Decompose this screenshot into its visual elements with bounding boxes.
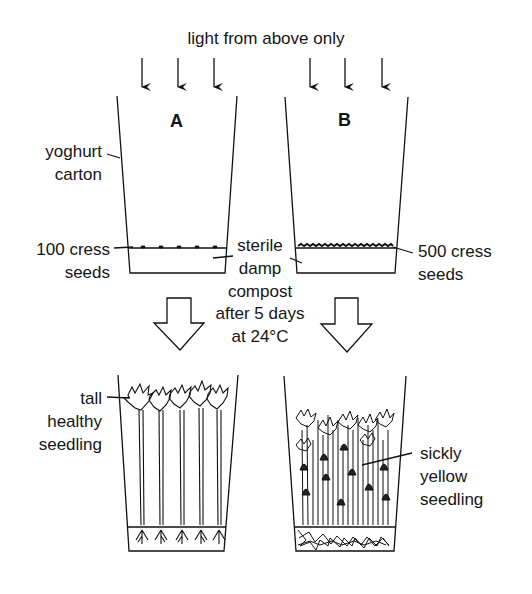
down-arrow-b <box>321 298 372 352</box>
seeds-b-line1: 500 cress <box>418 240 492 263</box>
carton-b-label: B <box>338 109 351 132</box>
tall-line3: seedling <box>20 433 102 456</box>
seeds-a-line1: 100 cress <box>20 238 110 261</box>
seeds-a-line2: seeds <box>20 261 110 284</box>
seeds-b-line2: seeds <box>418 263 463 286</box>
tall-seedlings <box>124 381 228 544</box>
tall-line1: tall <box>20 387 102 410</box>
sickly-line3: seedling <box>420 488 483 511</box>
title: light from above only <box>166 27 366 50</box>
carton-label-line1: yoghurt <box>20 140 102 163</box>
compost-line1: sterile <box>220 234 300 257</box>
sickly-seedlings <box>296 409 394 550</box>
sickly-line2: yellow <box>420 465 467 488</box>
compost-line3: compost <box>220 280 300 303</box>
tall-line2: healthy <box>20 410 102 433</box>
sickly-line1: sickly <box>420 442 462 465</box>
carton-a-label: A <box>170 110 183 133</box>
down-arrow-a <box>154 298 204 350</box>
carton-a-result <box>118 375 238 551</box>
condition-line2: at 24°C <box>200 325 320 348</box>
light-arrows-b <box>310 58 382 87</box>
light-arrows-a <box>142 58 214 87</box>
carton-label-line2: carton <box>20 163 102 186</box>
compost-line2: damp <box>220 257 300 280</box>
condition-line1: after 5 days <box>200 302 320 325</box>
